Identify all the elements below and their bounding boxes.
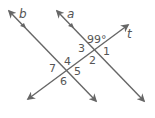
line-t: [28, 25, 128, 99]
angle-diagram: b a t 99° 1 3 2 4 7 5 6: [0, 0, 155, 118]
angle-7-label: 7: [49, 62, 56, 75]
label-line-b: b: [19, 7, 27, 21]
angle-1-label: 1: [103, 45, 110, 58]
angle-5-label: 5: [74, 65, 81, 78]
line-b: [9, 11, 96, 101]
label-line-t: t: [127, 27, 133, 41]
label-line-a: a: [67, 7, 74, 21]
angle-4-label: 4: [64, 55, 71, 68]
angle-6-label: 6: [60, 75, 67, 88]
angle-3-label: 3: [78, 42, 85, 55]
angle-2-label: 2: [89, 54, 96, 67]
